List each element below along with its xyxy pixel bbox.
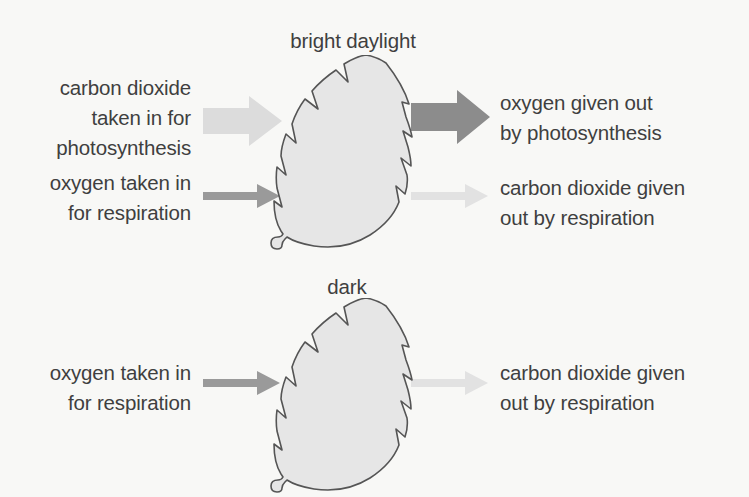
label-oxygen-taken-in-daylight: oxygen taken in for respiration	[0, 168, 191, 228]
label-oxygen-given-out: oxygen given out by photosynthesis	[500, 88, 749, 148]
leaf-illustration-daylight	[262, 55, 432, 250]
label-carbon-dioxide-given-out-daylight: carbon dioxide given out by respiration	[500, 173, 749, 233]
label-carbon-dioxide-given-out-dark: carbon dioxide given out by respiration	[500, 358, 749, 418]
label-carbon-dioxide-taken-in: carbon dioxide taken in for photosynthes…	[0, 73, 191, 163]
leaf-illustration-dark	[262, 298, 432, 493]
gas-exchange-diagram: bright daylight dark carbon dioxide take…	[0, 0, 749, 497]
section-heading-bright-daylight: bright daylight	[238, 26, 468, 56]
label-oxygen-taken-in-dark: oxygen taken in for respiration	[0, 358, 191, 418]
